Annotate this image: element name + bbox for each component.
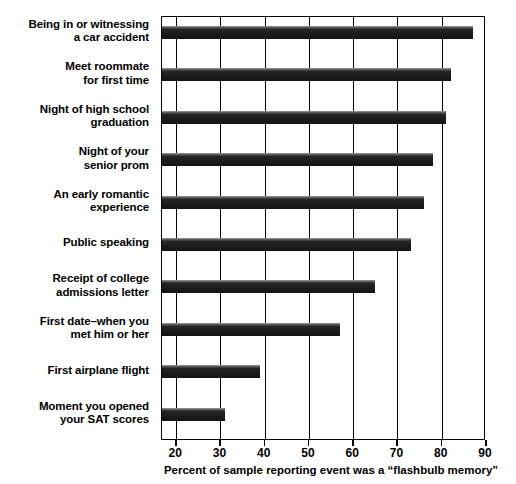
x-tick-label-80: 80	[424, 446, 458, 461]
category-label: First date–when youmet him or her	[0, 315, 149, 342]
category-label: Night of high schoolgraduation	[0, 103, 149, 130]
bar	[162, 26, 473, 39]
x-tick-label-70: 70	[379, 446, 413, 461]
category-label-line-1: Being in or witnessing	[29, 18, 149, 30]
plot-area	[161, 16, 485, 440]
category-label-line-1: First date–when you	[40, 315, 149, 327]
bar	[162, 111, 446, 124]
category-label: Night of yoursenior prom	[0, 145, 149, 172]
flashbulb-memory-bar-chart: Being in or witnessinga car accidentMeet…	[0, 0, 516, 484]
category-label-line-2: for first time	[0, 74, 149, 88]
category-label-line-1: Moment you opened	[39, 400, 149, 412]
category-label-line-2: admissions letter	[0, 286, 149, 300]
x-tick-label-50: 50	[291, 446, 325, 461]
category-label: An early romanticexperience	[0, 188, 149, 215]
x-axis-tick-labels: 2030405060708090	[161, 446, 485, 462]
category-label: Being in or witnessinga car accident	[0, 18, 149, 45]
bar	[162, 238, 411, 251]
category-label-line-1: Receipt of college	[52, 272, 149, 284]
category-label-line-2: experience	[0, 201, 149, 215]
category-label-line-1: First airplane flight	[48, 364, 149, 376]
category-label: Meet roommatefor first time	[0, 60, 149, 87]
bar	[162, 153, 433, 166]
category-label-line-1: Night of high school	[40, 103, 149, 115]
category-label-line-1: An early romantic	[54, 188, 149, 200]
category-label-line-2: senior prom	[0, 159, 149, 173]
category-label-line-1: Meet roommate	[65, 60, 149, 72]
category-label: Public speaking	[0, 236, 149, 250]
category-label-line-2: met him or her	[0, 328, 149, 342]
x-tick-label-30: 30	[202, 446, 236, 461]
category-axis-labels: Being in or witnessinga car accidentMeet…	[0, 16, 155, 440]
x-axis-title: Percent of sample reporting event was a …	[161, 463, 501, 477]
bar	[162, 408, 225, 421]
x-tick-label-90: 90	[468, 446, 502, 461]
x-tick-label-20: 20	[158, 446, 192, 461]
category-label-line-2: graduation	[0, 116, 149, 130]
bar	[162, 196, 424, 209]
x-tick-label-60: 60	[335, 446, 369, 461]
bar	[162, 323, 340, 336]
category-label-line-1: Public speaking	[63, 236, 149, 248]
category-label-line-1: Night of your	[79, 145, 149, 157]
bar	[162, 365, 260, 378]
category-label: Moment you openedyour SAT scores	[0, 400, 149, 427]
category-label: First airplane flight	[0, 364, 149, 378]
category-label-line-2: your SAT scores	[0, 413, 149, 427]
category-label: Receipt of collegeadmissions letter	[0, 272, 149, 299]
bar	[162, 280, 375, 293]
bar	[162, 68, 451, 81]
category-label-line-2: a car accident	[0, 31, 149, 45]
x-tick-label-40: 40	[247, 446, 281, 461]
